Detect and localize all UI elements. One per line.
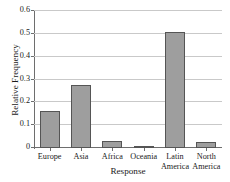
gridline bbox=[34, 56, 222, 57]
y-tick: 0.4 bbox=[34, 56, 35, 57]
y-axis-label: Relative Frequency bbox=[10, 14, 20, 146]
y-tick: 0 bbox=[34, 147, 35, 148]
y-tick: 0.3 bbox=[34, 79, 35, 80]
x-tick-label: Asia bbox=[65, 152, 96, 162]
y-tick-mark bbox=[31, 10, 34, 11]
chart-title bbox=[0, 0, 230, 3]
gridline bbox=[34, 33, 222, 34]
gridline bbox=[34, 10, 222, 11]
y-tick-label: 0.5 bbox=[20, 28, 30, 37]
x-tick-mark bbox=[206, 148, 207, 151]
x-tick-label: Africa bbox=[97, 152, 128, 162]
y-tick: 0.2 bbox=[34, 101, 35, 102]
y-tick-mark bbox=[31, 56, 34, 57]
y-tick-label: 0.1 bbox=[20, 119, 30, 128]
y-tick: 0.5 bbox=[34, 33, 35, 34]
y-tick-label: 0 bbox=[26, 142, 30, 151]
x-tick-label: Europe bbox=[34, 152, 65, 162]
bar bbox=[40, 111, 60, 148]
bar-chart-figure: Relative Frequency 00.10.20.30.40.50.6 E… bbox=[0, 0, 230, 182]
plot-area: 00.10.20.30.40.50.6 EuropeAsiaAfricaOcea… bbox=[34, 11, 222, 148]
bar bbox=[165, 32, 185, 148]
x-tick-label: Oceania bbox=[128, 152, 159, 162]
bar bbox=[102, 141, 122, 148]
gridline bbox=[34, 101, 222, 102]
y-tick-label: 0.2 bbox=[20, 96, 30, 105]
x-tick-mark bbox=[175, 148, 176, 151]
gridline bbox=[34, 147, 222, 148]
y-tick-mark bbox=[31, 147, 34, 148]
x-tick-mark bbox=[50, 148, 51, 151]
gridline bbox=[34, 79, 222, 80]
x-tick-mark bbox=[144, 148, 145, 151]
x-tick-mark bbox=[112, 148, 113, 151]
y-tick: 0.1 bbox=[34, 124, 35, 125]
y-tick-label: 0.3 bbox=[20, 74, 30, 83]
x-tick-mark bbox=[81, 148, 82, 151]
gridline bbox=[34, 124, 222, 125]
y-tick-label: 0.4 bbox=[20, 51, 30, 60]
bar bbox=[71, 85, 91, 148]
x-axis-label: Response bbox=[34, 166, 222, 176]
y-tick-mark bbox=[31, 79, 34, 80]
y-tick-mark bbox=[31, 33, 34, 34]
y-tick-mark bbox=[31, 124, 34, 125]
y-tick: 0.6 bbox=[34, 10, 35, 11]
y-tick-label: 0.6 bbox=[20, 5, 30, 14]
y-tick-mark bbox=[31, 101, 34, 102]
